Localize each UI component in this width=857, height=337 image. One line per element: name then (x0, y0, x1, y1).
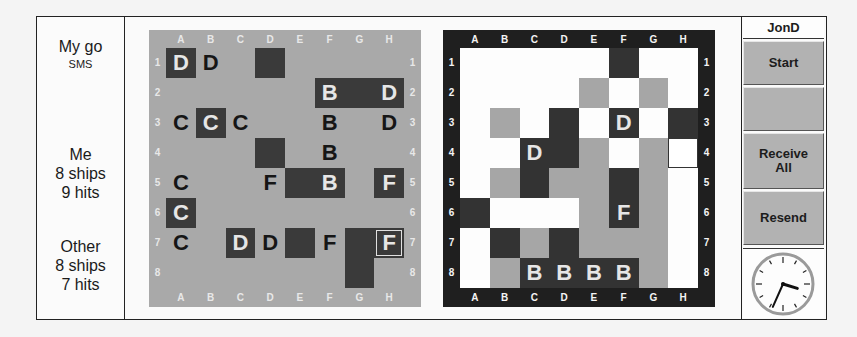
board-cell-a3[interactable]: C (166, 108, 196, 138)
column-label-e: E (285, 34, 315, 46)
board-cell-f5[interactable]: B (315, 168, 345, 198)
column-label-f: F (315, 34, 345, 46)
board-cell-g7[interactable] (345, 228, 375, 258)
column-label-h: H (374, 292, 404, 304)
board-cell-g2[interactable] (345, 78, 375, 108)
board-cell-e4[interactable] (579, 138, 609, 168)
board-cell-b3[interactable] (490, 108, 520, 138)
board-cell-f4[interactable]: B (315, 138, 345, 168)
column-label-f: F (315, 292, 345, 304)
board-cell-b8[interactable] (490, 258, 520, 288)
board-cell-d5[interactable]: F (255, 168, 285, 198)
row-label-5: 5 (149, 177, 166, 189)
board-cell-c5[interactable] (520, 168, 550, 198)
row-label-7: 7 (149, 237, 166, 249)
board-cell-f1[interactable] (609, 48, 639, 78)
board-cell-f7[interactable]: F (315, 228, 345, 258)
board-cell-b7[interactable] (490, 228, 520, 258)
board-cell-f7[interactable] (609, 228, 639, 258)
board-cell-a6[interactable]: C (166, 198, 196, 228)
row-label-5: 5 (698, 177, 715, 189)
board-cell-c7[interactable] (520, 228, 550, 258)
column-label-d: D (255, 292, 285, 304)
board-cell-c7[interactable]: D (226, 228, 256, 258)
board-cell-e6[interactable] (579, 198, 609, 228)
start-button[interactable]: Start (743, 41, 824, 85)
row-label-7: 7 (443, 237, 460, 249)
board-cell-h5[interactable]: F (374, 168, 404, 198)
other-ships: 8 ships (37, 256, 124, 276)
board-cell-d5[interactable] (549, 168, 579, 198)
column-label-h: H (374, 34, 404, 46)
column-label-d: D (549, 292, 579, 304)
row-label-6: 6 (149, 207, 166, 219)
row-label-7: 7 (698, 237, 715, 249)
column-label-g: G (345, 292, 375, 304)
board-cell-f5[interactable] (609, 168, 639, 198)
column-label-e: E (579, 292, 609, 304)
board-cell-f3[interactable]: D (609, 108, 639, 138)
board-cell-d8[interactable]: B (549, 258, 579, 288)
board-cell-g7[interactable] (639, 228, 669, 258)
column-label-h: H (668, 292, 698, 304)
board-cell-d7[interactable] (549, 228, 579, 258)
column-label-d: D (549, 34, 579, 46)
board-cell-h4[interactable] (668, 138, 698, 168)
row-label-4: 4 (698, 147, 715, 159)
resend-button[interactable]: Resend (743, 191, 824, 245)
receive-all-button[interactable]: Receive All (743, 133, 824, 189)
board-cell-f3[interactable]: B (315, 108, 345, 138)
board-cell-g5[interactable] (639, 168, 669, 198)
board-cell-d4[interactable] (255, 138, 285, 168)
board-cell-b3[interactable]: C (196, 108, 226, 138)
status-panel: My go SMS Me 8 ships 9 hits Other 8 ship… (36, 16, 125, 320)
board-cell-d3[interactable] (549, 108, 579, 138)
board-cell-a5[interactable]: C (166, 168, 196, 198)
board-cell-d7[interactable]: D (255, 228, 285, 258)
column-label-d: D (255, 34, 285, 46)
board-cell-e7[interactable] (285, 228, 315, 258)
opponent-name: JonD (743, 17, 824, 39)
board-cell-a6[interactable] (460, 198, 490, 228)
board-cell-c3[interactable]: C (226, 108, 256, 138)
board-cell-d1[interactable] (255, 48, 285, 78)
column-label-c: C (520, 292, 550, 304)
board-cell-g6[interactable] (639, 198, 669, 228)
board-cell-c8[interactable]: B (520, 258, 550, 288)
my-board-grid[interactable]: DDBDCCCBDBCFBFCCDDFF (166, 48, 404, 288)
board-cell-e7[interactable] (579, 228, 609, 258)
column-label-g: G (639, 34, 669, 46)
board-cell-g8[interactable] (639, 258, 669, 288)
board-cell-h3[interactable]: D (374, 108, 404, 138)
board-cell-f8[interactable]: B (609, 258, 639, 288)
board-cell-e5[interactable] (579, 168, 609, 198)
board-cell-d4[interactable] (549, 138, 579, 168)
board-cell-h3[interactable] (668, 108, 698, 138)
opponent-board-grid[interactable]: DDFBBBB (460, 48, 698, 288)
board-cell-e2[interactable] (579, 78, 609, 108)
mode-label: SMS (37, 57, 124, 71)
column-label-b: B (196, 34, 226, 46)
row-label-6: 6 (404, 207, 421, 219)
board-cell-b1[interactable]: D (196, 48, 226, 78)
board-cell-g2[interactable] (639, 78, 669, 108)
me-hits: 9 hits (37, 183, 124, 203)
board-cell-h7[interactable]: F (374, 228, 404, 258)
board-cell-f2[interactable]: B (315, 78, 345, 108)
other-label: Other (37, 237, 124, 257)
blank-button[interactable] (743, 87, 824, 131)
board-cell-e8[interactable]: B (579, 258, 609, 288)
board-cell-a7[interactable]: C (166, 228, 196, 258)
board-cell-c4[interactable]: D (520, 138, 550, 168)
row-label-8: 8 (443, 267, 460, 279)
board-cell-e5[interactable] (285, 168, 315, 198)
board-cell-h2[interactable]: D (374, 78, 404, 108)
row-label-1: 1 (404, 57, 421, 69)
turn-status: My go (37, 37, 124, 57)
board-cell-g8[interactable] (345, 258, 375, 288)
board-cell-g4[interactable] (639, 138, 669, 168)
board-cell-f6[interactable]: F (609, 198, 639, 228)
row-label-4: 4 (443, 147, 460, 159)
board-cell-a1[interactable]: D (166, 48, 196, 78)
board-cell-b5[interactable] (490, 168, 520, 198)
